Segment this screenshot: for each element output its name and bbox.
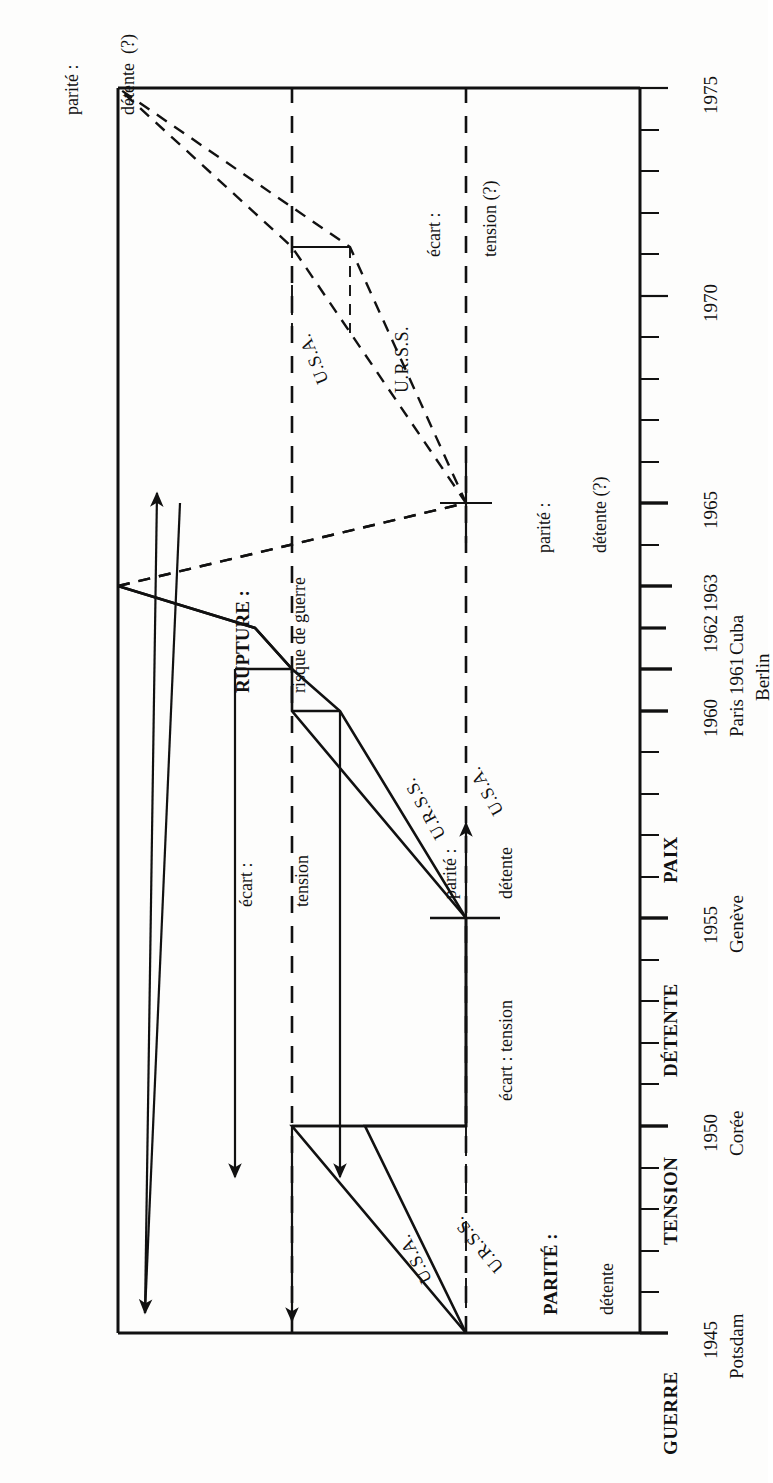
x-tick-year-1945: 1945 xyxy=(700,1321,721,1359)
x-axis-ticks xyxy=(640,88,672,1333)
x-tick-year-1975: 1975 xyxy=(700,76,721,114)
annotation-ecart-1970-line2: tension (?) xyxy=(480,181,500,257)
annotation-parite-1965: parité : détente (?) xyxy=(498,477,646,553)
annotation-parite-1965-line1: parité : xyxy=(534,477,554,553)
y-axis-label-paix: PAIX xyxy=(660,836,681,883)
series-label-urss-1970: U.R.S.S. xyxy=(392,326,412,393)
annotation-parite-1975-line1: parité : xyxy=(62,34,82,115)
x-tick-event-coree: Corée xyxy=(726,1111,747,1156)
annotation-parite-1945-line1: PARITÉ : xyxy=(540,1234,561,1315)
annotation-parite-1975-line2: détente (?) xyxy=(118,34,138,115)
x-tick-event-berlin: Berlin xyxy=(752,654,773,702)
annotation-parite-1955: parité : détente xyxy=(404,847,552,899)
x-tick-event-potsdam: Potsdam xyxy=(726,1314,747,1379)
annotation-parite-1945: PARITÉ : détente xyxy=(504,1234,653,1315)
y-axis-label-detente: DÉTENTE xyxy=(660,983,681,1077)
annotation-ecart-1970: écart : tension (?) xyxy=(388,181,536,257)
y-axis-label-tension: TENSION xyxy=(660,1157,681,1245)
annotation-parite-1955-line2: détente xyxy=(496,847,516,899)
annotation-ecart-1960: écart : tension xyxy=(200,855,348,907)
x-tick-year-1963: 1963 xyxy=(700,574,721,612)
annotation-parite-1965-line2: détente (?) xyxy=(590,477,610,553)
annotation-rupture-line1: RUPTURE : xyxy=(232,577,253,693)
x-tick-year-1960: 1960 xyxy=(700,699,721,737)
x-tick-year-1961: 1961 xyxy=(726,657,747,695)
y-axis-label-guerre: GUERRE xyxy=(660,1371,681,1455)
x-tick-year-1962: 1962 xyxy=(700,615,721,653)
x-tick-year-1955: 1955 xyxy=(700,906,721,944)
annotation-parite-1945-line2: détente xyxy=(597,1234,617,1315)
annotation-rupture: RUPTURE : risque de guerre xyxy=(196,577,345,693)
annotation-rupture-line2: risque de guerre xyxy=(289,577,309,693)
annotation-ecart-1960-line1: écart : xyxy=(236,855,256,907)
x-tick-event-paris: Paris xyxy=(726,699,747,737)
x-tick-event-geneve: Genève xyxy=(726,895,747,953)
x-tick-event-cuba: Cuba xyxy=(726,615,747,655)
annotation-ecart-1960-line2: tension xyxy=(292,855,312,907)
annotation-parite-1955-line1: parité : xyxy=(440,847,460,899)
annotation-parite-1975: parité : détente (?) xyxy=(26,34,174,115)
annotation-ecart-1950: écart : tension xyxy=(496,1000,516,1101)
x-tick-year-1965: 1965 xyxy=(700,491,721,529)
x-tick-year-1970: 1970 xyxy=(700,284,721,322)
x-tick-year-1950: 1950 xyxy=(700,1114,721,1152)
annotation-ecart-1970-line1: écart : xyxy=(424,181,444,257)
